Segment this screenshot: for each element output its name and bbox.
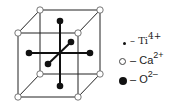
- oxygen-front: [45, 61, 52, 68]
- legend-item-o: – O2–: [118, 68, 178, 88]
- legend-label: – Ti4+: [130, 35, 161, 46]
- legend-label: – O2–: [130, 73, 158, 85]
- filled-circle-icon: [119, 77, 127, 85]
- legend-label: – Ca2+: [130, 54, 164, 66]
- oxygen-back: [68, 39, 75, 46]
- oxygen-top: [57, 18, 64, 25]
- titanium-ion-center: [58, 52, 61, 55]
- legend-item-ti: – Ti4+: [118, 30, 178, 50]
- oxygen-right: [87, 50, 94, 57]
- legend-item-ca: – Ca2+: [118, 49, 178, 69]
- small-dot-icon: [123, 42, 126, 45]
- open-circle-icon: [119, 58, 126, 65]
- oxygen-bottom: [57, 83, 64, 90]
- oxygen-left: [26, 50, 33, 57]
